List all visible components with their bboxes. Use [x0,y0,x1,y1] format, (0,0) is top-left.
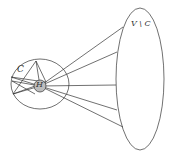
edge-h-vc-1 [40,27,123,86]
complement-label: V \ C [131,19,151,28]
edge-h-vc-3 [40,85,116,86]
edge-h-vc-2 [40,52,117,86]
hub-label: H [36,80,43,89]
edge-h-vc-4 [40,86,117,110]
cluster-label: C [17,64,24,74]
complement-ellipse [116,8,164,150]
